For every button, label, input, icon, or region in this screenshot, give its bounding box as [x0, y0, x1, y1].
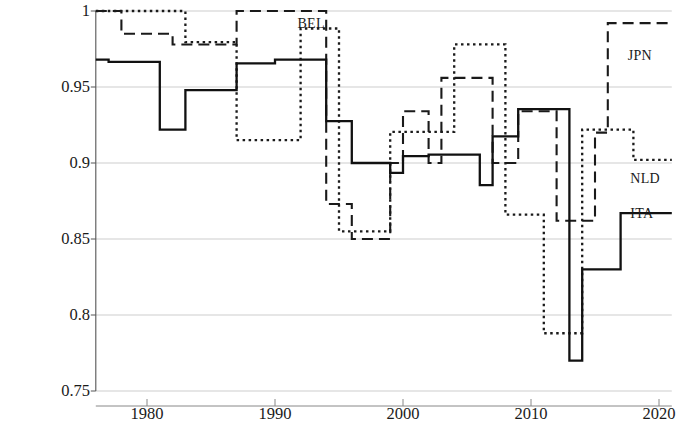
- axis-lines: [91, 11, 672, 406]
- series-label-jpn: JPN: [628, 48, 652, 64]
- series-line-nld: [96, 11, 672, 333]
- plot-area: [0, 0, 683, 435]
- series-line-ita: [96, 60, 672, 361]
- series-label-ita: ITA: [630, 206, 653, 222]
- series-line-bel: [96, 11, 672, 239]
- series-label-nld: NLD: [630, 171, 660, 187]
- gridlines: [96, 11, 672, 391]
- series-label-bel: BEL: [297, 16, 324, 32]
- series-lines: [96, 11, 672, 361]
- chart-figure: Congruence 1 0.95 0.9 0.85 0.8 0.75 1980…: [0, 0, 683, 435]
